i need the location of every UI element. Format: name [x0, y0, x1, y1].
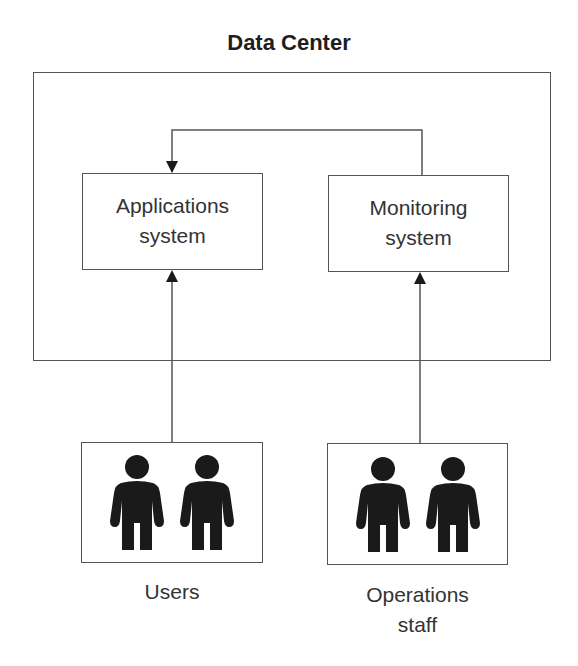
users-icons: [81, 455, 263, 550]
users-label: Users: [81, 577, 263, 607]
person-icon: [179, 455, 235, 550]
operations-icons: [327, 457, 508, 552]
arrowhead-icon: [414, 272, 426, 284]
monitoring-system-label: Monitoring system: [328, 193, 509, 253]
person-icon: [425, 457, 481, 552]
applications-line2: system: [82, 221, 263, 251]
monitoring-line1: Monitoring: [328, 193, 509, 223]
operations-staff-label: Operations staff: [327, 580, 508, 640]
applications-system-label: Applications system: [82, 191, 263, 251]
person-icon: [355, 457, 411, 552]
arrowhead-icon: [166, 270, 178, 282]
operations-line1: Operations: [327, 580, 508, 610]
connectors: [0, 0, 578, 666]
person-icon: [109, 455, 165, 550]
monitoring-line2: system: [328, 223, 509, 253]
operations-line2: staff: [327, 610, 508, 640]
arrowhead-icon: [166, 161, 178, 173]
applications-line1: Applications: [82, 191, 263, 221]
edge-monitoring-to-applications: [172, 130, 422, 175]
